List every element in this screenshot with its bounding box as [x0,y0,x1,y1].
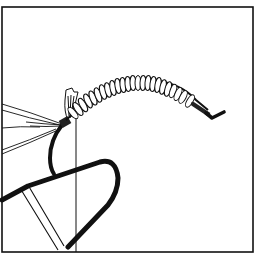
fly-tying-illustration [0,0,257,264]
vise-jaw [2,161,118,247]
wrapped-body [66,75,196,120]
illustration-canvas [0,0,257,264]
frame-border [2,7,253,252]
vise-arm [20,185,64,250]
